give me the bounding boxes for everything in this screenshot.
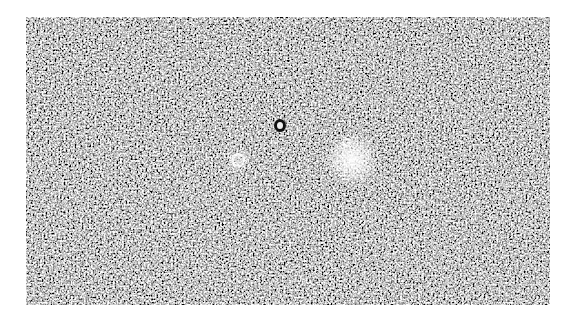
photo-plate [26, 17, 550, 305]
grain-texture [26, 17, 550, 305]
